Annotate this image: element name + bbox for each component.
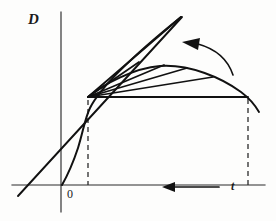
origin-label: 0 xyxy=(67,188,73,200)
figure-container: D t 0 xyxy=(0,0,276,221)
straight-arrow-head xyxy=(162,182,175,192)
figure-canvas xyxy=(0,0,276,221)
dashed-verticals-group xyxy=(88,99,248,185)
curved-arrow-shaft xyxy=(198,44,233,75)
y-axis-label: D xyxy=(28,12,39,27)
curved-arrow-head xyxy=(182,38,200,50)
ray-4 xyxy=(88,68,187,97)
growth-curve xyxy=(62,17,181,185)
tangent-line xyxy=(18,17,182,196)
axes-group xyxy=(12,12,265,212)
straight-arrow-left xyxy=(162,182,219,192)
x-axis-label: t xyxy=(231,180,234,192)
ray-fan-group xyxy=(88,17,248,97)
